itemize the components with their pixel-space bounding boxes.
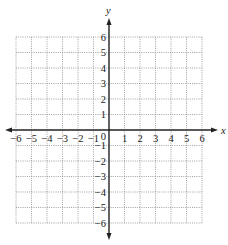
x-tick-label: −3 [57, 133, 68, 144]
x-tick-label: 3 [153, 133, 158, 144]
y-tick-label: 4 [101, 63, 107, 74]
x-axis-label: x [220, 125, 226, 136]
y-tick-label: 6 [101, 32, 106, 43]
x-tick-label: 6 [199, 133, 204, 144]
y-axis-arrow-down-icon [107, 233, 112, 240]
y-tick-label: −2 [95, 156, 106, 167]
axes [5, 18, 218, 240]
x-tick-label: 4 [168, 133, 174, 144]
y-tick-label: −4 [95, 187, 107, 198]
x-axis-arrow-right-icon [211, 128, 218, 133]
x-axis-arrow-left-icon [5, 128, 12, 133]
y-tick-label: 5 [101, 47, 106, 58]
y-axis-arrow-up-icon [107, 18, 112, 25]
x-tick-label: 1 [122, 133, 127, 144]
x-tick-label: −6 [10, 133, 21, 144]
x-tick-label: 2 [137, 133, 142, 144]
y-axis-label: y [105, 5, 111, 16]
y-tick-label: 2 [101, 94, 106, 105]
x-tick-label: −4 [41, 133, 53, 144]
x-tick-label: −2 [72, 133, 83, 144]
coordinate-plane: −6−5−4−3−2−1123456−6−5−4−3−2−11234560xy [0, 0, 228, 245]
y-tick-label: 1 [101, 109, 106, 120]
y-tick-label: −6 [95, 218, 106, 229]
x-tick-label: 5 [184, 133, 189, 144]
x-tick-label: −5 [26, 133, 37, 144]
tick-labels: −6−5−4−3−2−1123456−6−5−4−3−2−11234560xy [10, 5, 226, 229]
origin-label: 0 [101, 131, 106, 142]
y-tick-label: −5 [95, 202, 106, 213]
y-tick-label: 3 [101, 78, 106, 89]
y-tick-label: −3 [95, 171, 106, 182]
